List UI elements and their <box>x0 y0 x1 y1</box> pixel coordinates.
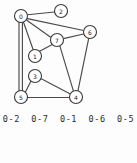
node-label-3: 3 <box>33 73 37 80</box>
graph-node-7[interactable]: 7 <box>51 34 64 47</box>
node-label-5: 5 <box>19 94 23 101</box>
graph-edge-3-4 <box>41 79 70 94</box>
graph-edge-0-6 <box>27 19 83 31</box>
node-label-7: 7 <box>55 37 59 44</box>
graph-node-4[interactable]: 4 <box>70 91 83 104</box>
graph-edge-6-4 <box>78 38 89 90</box>
graph-node-3[interactable]: 3 <box>29 70 42 83</box>
node-label-0: 0 <box>19 13 23 20</box>
graph-edge-7-4 <box>60 46 73 90</box>
node-label-4: 4 <box>74 94 78 101</box>
graph-node-5[interactable]: 5 <box>15 91 28 104</box>
graph-edge-0-1 <box>24 22 34 49</box>
graph-node-1[interactable]: 1 <box>29 50 42 63</box>
node-label-1: 1 <box>33 53 37 60</box>
graph-visualization-panel: 01234567 0-2 0-7 0-1 0-6 0-5 <box>0 0 137 163</box>
graph-edge-7-6 <box>63 34 83 39</box>
graph-edge-1-7 <box>40 45 53 52</box>
edge-list-caption: 0-2 0-7 0-1 0-6 0-5 <box>0 110 137 128</box>
graph-node-6[interactable]: 6 <box>84 26 97 39</box>
graph-figure: 01234567 <box>0 0 137 110</box>
graph-node-0[interactable]: 0 <box>15 10 28 23</box>
graph-edge-0-2 <box>27 12 54 15</box>
graph-node-2[interactable]: 2 <box>55 5 68 18</box>
graph-edge-3-5 <box>25 81 31 92</box>
graph-canvas: 01234567 <box>0 0 137 110</box>
node-label-6: 6 <box>88 29 92 36</box>
footer-whitespace <box>0 128 137 163</box>
node-label-2: 2 <box>59 8 63 15</box>
